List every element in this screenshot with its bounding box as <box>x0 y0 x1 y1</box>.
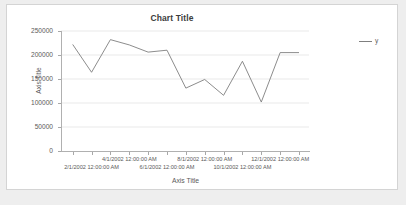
x-axis-tick-label: 10/1/2002 12:00:00 AM <box>213 165 271 171</box>
y-axis-tick-label: 50000 <box>7 124 53 131</box>
x-axis-tick-mark <box>280 152 281 155</box>
x-axis-tick-mark <box>73 152 74 155</box>
y-axis-tick-label: 250000 <box>7 28 53 35</box>
y-axis-tick-mark <box>58 55 61 56</box>
x-axis-tick-mark <box>167 152 168 155</box>
y-axis-tick-label: 150000 <box>7 76 53 83</box>
y-axis-tick-mark <box>58 103 61 104</box>
plot-area <box>61 31 309 151</box>
x-axis-tick-mark <box>242 152 243 155</box>
y-axis-tick-mark <box>58 127 61 128</box>
x-axis-tick-label: 8/1/2002 12:00:00 AM <box>177 157 232 163</box>
y-axis-line <box>61 31 62 152</box>
y-axis-tick-label: 100000 <box>7 100 53 107</box>
x-axis-title: Axis Title <box>61 177 310 184</box>
y-axis-tick-mark <box>58 151 61 152</box>
x-axis-tick-label: 6/1/2002 12:00:00 AM <box>140 165 195 171</box>
series-line-y <box>73 40 299 102</box>
chart-container: Chart Title Axis Title 05000010000015000… <box>6 4 398 190</box>
y-axis-tick-mark <box>58 79 61 80</box>
legend: y <box>359 38 378 45</box>
x-axis-tick-mark <box>224 152 225 155</box>
x-axis-tick-mark <box>261 152 262 155</box>
x-axis-tick-mark <box>299 152 300 155</box>
y-axis-tick-mark <box>58 31 61 32</box>
x-axis-tick-label: 4/1/2002 12:00:00 AM <box>102 157 157 163</box>
x-axis-tick-label: 2/1/2002 12:00:00 AM <box>64 165 119 171</box>
x-axis-tick-mark <box>205 152 206 155</box>
legend-line-swatch-icon <box>359 41 372 42</box>
y-axis-tick-label: 0 <box>7 148 53 155</box>
x-axis-tick-mark <box>110 152 111 155</box>
chart-title: Chart Title <box>7 13 337 23</box>
legend-entry-label: y <box>375 38 378 45</box>
x-axis-tick-mark <box>186 152 187 155</box>
data-series-group <box>61 31 309 151</box>
x-axis-tick-mark <box>129 152 130 155</box>
x-axis-tick-label: 12/1/2002 12:00:00 AM <box>251 157 309 163</box>
x-axis-tick-mark <box>148 152 149 155</box>
y-axis-tick-label: 200000 <box>7 52 53 59</box>
x-axis-tick-mark <box>92 152 93 155</box>
